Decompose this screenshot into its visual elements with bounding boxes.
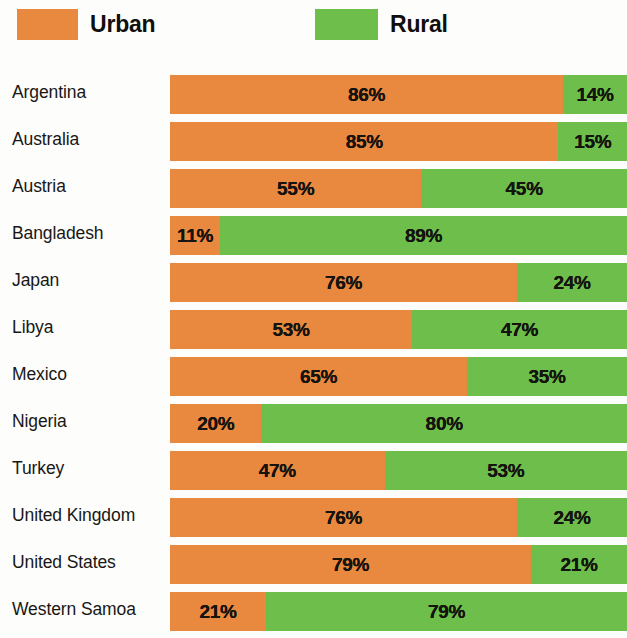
bar-segment-rural[interactable]: 24%: [517, 263, 627, 302]
chart-row: Japan76%24%: [0, 260, 627, 307]
legend-label-urban: Urban: [90, 11, 155, 38]
bar-value-rural: 79%: [428, 601, 465, 623]
bar-value-urban: 76%: [325, 272, 362, 294]
bar-segment-rural[interactable]: 15%: [558, 122, 627, 161]
category-label: Bangladesh: [12, 213, 103, 253]
bar-segment-urban[interactable]: 76%: [170, 263, 517, 302]
stacked-bar: 11%89%: [170, 216, 627, 255]
bar-value-rural: 24%: [554, 507, 591, 529]
bar-segment-urban[interactable]: 79%: [170, 545, 531, 584]
bar-segment-urban[interactable]: 86%: [170, 75, 563, 114]
chart-row: Libya53%47%: [0, 307, 627, 354]
bar-segment-rural[interactable]: 24%: [517, 498, 627, 537]
chart-legend: Urban Rural: [0, 0, 627, 66]
chart-row: Turkey47%53%: [0, 448, 627, 495]
bar-value-rural: 53%: [487, 460, 524, 482]
chart-row: Bangladesh11%89%: [0, 213, 627, 260]
stacked-bar: 20%80%: [170, 404, 627, 443]
bar-value-urban: 86%: [348, 84, 385, 106]
chart-row: Mexico65%35%: [0, 354, 627, 401]
bar-value-rural: 45%: [506, 178, 543, 200]
bar-segment-rural[interactable]: 80%: [261, 404, 627, 443]
bar-segment-urban[interactable]: 55%: [170, 169, 421, 208]
category-label: Nigeria: [12, 401, 67, 441]
bar-value-rural: 47%: [501, 319, 538, 341]
category-label: Australia: [12, 119, 79, 159]
bar-value-urban: 65%: [300, 366, 337, 388]
chart-row: Nigeria20%80%: [0, 401, 627, 448]
bar-segment-rural[interactable]: 35%: [467, 357, 627, 396]
bar-segment-rural[interactable]: 79%: [266, 592, 627, 631]
bar-segment-rural[interactable]: 14%: [563, 75, 627, 114]
bar-value-urban: 20%: [197, 413, 234, 435]
bar-value-rural: 15%: [574, 131, 611, 153]
category-label: Libya: [12, 307, 53, 347]
bar-value-urban: 85%: [346, 131, 383, 153]
category-label: Austria: [12, 166, 66, 206]
category-label: Japan: [12, 260, 59, 300]
bar-value-urban: 55%: [277, 178, 314, 200]
stacked-bar: 21%79%: [170, 592, 627, 631]
category-label: Mexico: [12, 354, 67, 394]
bar-value-urban: 53%: [273, 319, 310, 341]
legend-swatch-rural-icon: [315, 9, 378, 40]
bar-segment-urban[interactable]: 20%: [170, 404, 261, 443]
category-label: Western Samoa: [12, 589, 136, 629]
bar-segment-urban[interactable]: 47%: [170, 451, 385, 490]
stacked-bar: 47%53%: [170, 451, 627, 490]
bar-value-rural: 89%: [405, 225, 442, 247]
category-label: United Kingdom: [12, 495, 135, 535]
bar-segment-urban[interactable]: 76%: [170, 498, 517, 537]
category-label: Turkey: [12, 448, 64, 488]
chart-row: Argentina86%14%: [0, 72, 627, 119]
chart-row: Austria55%45%: [0, 166, 627, 213]
bar-segment-urban[interactable]: 21%: [170, 592, 266, 631]
bar-segment-urban[interactable]: 85%: [170, 122, 558, 161]
legend-item-rural: Rural: [315, 9, 448, 40]
bar-value-urban: 47%: [259, 460, 296, 482]
stacked-bar: 85%15%: [170, 122, 627, 161]
stacked-bar: 86%14%: [170, 75, 627, 114]
stacked-bar-chart: Argentina86%14%Australia85%15%Austria55%…: [0, 72, 627, 636]
bar-segment-rural[interactable]: 53%: [385, 451, 627, 490]
bar-segment-urban[interactable]: 65%: [170, 357, 467, 396]
bar-value-rural: 14%: [576, 84, 613, 106]
stacked-bar: 55%45%: [170, 169, 627, 208]
bar-segment-urban[interactable]: 53%: [170, 310, 412, 349]
stacked-bar: 53%47%: [170, 310, 627, 349]
bar-value-rural: 35%: [528, 366, 565, 388]
stacked-bar: 76%24%: [170, 498, 627, 537]
stacked-bar: 76%24%: [170, 263, 627, 302]
stacked-bar: 65%35%: [170, 357, 627, 396]
category-label: United States: [12, 542, 116, 582]
bar-value-urban: 79%: [332, 554, 369, 576]
category-label: Argentina: [12, 72, 86, 112]
bar-value-rural: 24%: [554, 272, 591, 294]
chart-row: Western Samoa21%79%: [0, 589, 627, 636]
bar-value-urban: 76%: [325, 507, 362, 529]
stacked-bar: 79%21%: [170, 545, 627, 584]
legend-item-urban: Urban: [17, 9, 155, 40]
bar-value-urban: 11%: [177, 225, 213, 247]
bar-value-rural: 80%: [426, 413, 463, 435]
bar-segment-rural[interactable]: 89%: [220, 216, 627, 255]
chart-row: United Kingdom76%24%: [0, 495, 627, 542]
bar-value-rural: 21%: [560, 554, 597, 576]
bar-segment-rural[interactable]: 21%: [531, 545, 627, 584]
legend-label-rural: Rural: [390, 11, 448, 38]
bar-segment-rural[interactable]: 47%: [412, 310, 627, 349]
legend-swatch-urban-icon: [17, 9, 78, 40]
bar-value-urban: 21%: [199, 601, 236, 623]
chart-row: United States79%21%: [0, 542, 627, 589]
bar-segment-rural[interactable]: 45%: [421, 169, 627, 208]
bar-segment-urban[interactable]: 11%: [170, 216, 220, 255]
chart-row: Australia85%15%: [0, 119, 627, 166]
